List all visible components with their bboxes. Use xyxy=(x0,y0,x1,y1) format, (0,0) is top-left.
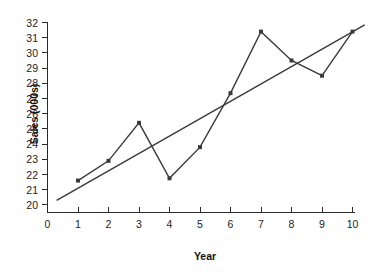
data-point-marker xyxy=(137,121,141,125)
sales-data-markers xyxy=(76,30,355,183)
y-tick-label: 30 xyxy=(18,48,38,59)
x-tick-label: 9 xyxy=(319,219,325,230)
x-axis-ticks xyxy=(78,207,353,213)
x-tick-label: 4 xyxy=(167,219,173,230)
data-point-marker xyxy=(229,91,233,95)
x-tick-label: 7 xyxy=(258,219,264,230)
x-tick-label: 10 xyxy=(347,219,359,230)
y-tick-label: 20 xyxy=(18,200,38,211)
y-tick-label: 32 xyxy=(18,17,38,28)
y-axis-title: Sales (000s) xyxy=(28,84,40,145)
x-tick-label: 1 xyxy=(75,219,81,230)
data-point-marker xyxy=(320,74,324,78)
data-point-marker xyxy=(198,145,202,149)
y-tick-label: 31 xyxy=(18,32,38,43)
data-point-marker xyxy=(76,179,80,183)
y-tick-label: 29 xyxy=(18,63,38,74)
trend-line-series xyxy=(57,25,365,201)
x-tick-label: 8 xyxy=(289,219,295,230)
chart-figure: 20212223242526272829303132 012345678910 … xyxy=(0,0,378,272)
y-tick-label: 21 xyxy=(18,184,38,195)
data-point-marker xyxy=(259,30,263,34)
x-tick-label: 2 xyxy=(106,219,112,230)
x-axis-title: Year xyxy=(194,250,216,262)
data-point-marker xyxy=(351,30,355,34)
data-point-marker xyxy=(107,159,111,163)
x-tick-label: 0 xyxy=(45,219,51,230)
x-tick-label: 6 xyxy=(228,219,234,230)
sales-line-series xyxy=(78,32,353,181)
x-tick-label: 3 xyxy=(136,219,142,230)
chart-plot-area xyxy=(0,0,378,272)
y-axis-ticks xyxy=(42,23,48,205)
data-point-marker xyxy=(168,176,172,180)
y-tick-label: 23 xyxy=(18,154,38,165)
x-tick-label: 5 xyxy=(197,219,203,230)
data-point-marker xyxy=(290,59,294,63)
y-tick-label: 22 xyxy=(18,169,38,180)
